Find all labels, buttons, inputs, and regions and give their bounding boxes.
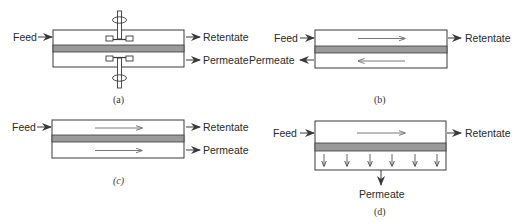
panel-c: Feed Retentate Permeate (c) (12, 120, 249, 187)
permeate-label: Permeate (203, 144, 249, 156)
panel-caption: (b) (374, 94, 386, 106)
retentate-label: Retentate (465, 32, 511, 44)
membrane (315, 143, 446, 151)
panel-caption: (c) (113, 175, 125, 187)
impeller-blade (126, 56, 133, 61)
panel-caption: (d) (374, 206, 386, 218)
feed-label: Feed (13, 31, 37, 43)
stirrer-shaft-bottom (118, 58, 122, 88)
membrane (315, 46, 447, 53)
impeller-blade (106, 56, 113, 61)
membrane-flow-patterns-diagram: Feed Retentate Permeate (a) Feed Retenta… (0, 0, 517, 223)
feed-label: Feed (273, 127, 297, 139)
stirrer-shaft-top (118, 11, 122, 39)
panel-a: Feed Retentate Permeate (a) (13, 11, 249, 106)
permeate-label: Permeate (249, 54, 295, 66)
retentate-label: Retentate (203, 121, 249, 133)
panel-b: Feed Retentate Permeate (b) (249, 30, 511, 106)
membrane (52, 135, 184, 142)
impeller-blade (106, 36, 113, 41)
feed-label: Feed (12, 121, 36, 133)
membrane (53, 45, 184, 52)
panel-d: Feed Retentate Permeate (d) (273, 121, 511, 218)
permeate-label: Permeate (203, 54, 249, 66)
panel-caption: (a) (113, 94, 124, 106)
permeate-label: Permeate (359, 188, 405, 200)
impeller-blade (126, 36, 133, 41)
retentate-label: Retentate (465, 127, 511, 139)
retentate-label: Retentate (203, 31, 249, 43)
feed-label: Feed (274, 32, 298, 44)
